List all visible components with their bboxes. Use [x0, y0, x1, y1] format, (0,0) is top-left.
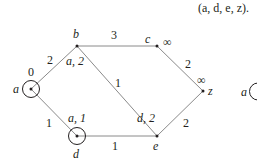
node-b-label: b: [73, 27, 79, 41]
node-c-annotation: ∞: [163, 35, 172, 49]
edge-e-z-weight: 2: [183, 116, 189, 130]
edge-a-d-weight: 1: [46, 116, 52, 130]
partial-node-a-label: a: [241, 85, 247, 99]
edge-d-e-weight: 1: [112, 139, 118, 153]
node-d-annotation: a, 1: [68, 111, 86, 125]
node-d-label: d: [73, 147, 80, 161]
graph-diagram: (a, d, e, z). a b c z d e 0 a, 2 ∞ ∞ a, …: [0, 0, 257, 164]
node-z-annotation: ∞: [197, 73, 206, 87]
node-z-dot: [202, 90, 205, 93]
partial-node-a-ring: [250, 83, 258, 100]
node-a-dot: [30, 88, 33, 91]
node-z-label: z: [207, 84, 213, 98]
edge-e-z: [157, 91, 203, 136]
node-e-label: e: [153, 139, 159, 153]
node-c-label: c: [145, 32, 151, 46]
edge-a-b-weight: 2: [47, 53, 53, 67]
edge-b-e-weight: 1: [115, 76, 121, 90]
node-e-dot: [156, 135, 159, 138]
node-b-dot: [76, 45, 79, 48]
edge-c-z-weight: 2: [185, 57, 191, 71]
node-a-label: a: [13, 82, 19, 96]
node-b-annotation: a, 2: [66, 54, 84, 68]
node-d-dot: [76, 135, 79, 138]
node-c-dot: [156, 45, 159, 48]
node-e-annotation: d, 2: [137, 111, 155, 125]
edge-b-c-weight: 3: [111, 28, 117, 42]
node-a-annotation: 0: [28, 65, 34, 79]
path-caption: (a, d, e, z).: [198, 1, 249, 15]
